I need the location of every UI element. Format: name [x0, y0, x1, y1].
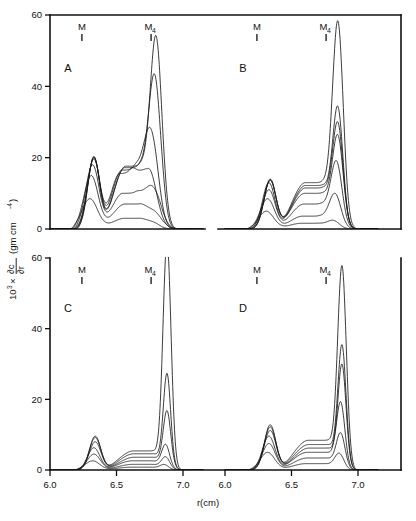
curve-A6	[50, 74, 203, 229]
marker-m-label-A: M	[78, 21, 86, 32]
marker-m4-sub-C: 4	[152, 270, 156, 277]
x-tick-label-C-6.0: 6.0	[43, 479, 56, 490]
marker-m-label-D: M	[253, 264, 261, 275]
curve-D3	[225, 402, 378, 470]
y-tick-label-top-40: 40	[31, 81, 42, 92]
y-tick-label-bottom-0: 0	[37, 464, 42, 475]
x-axis-title: r(cm)	[197, 497, 219, 508]
marker-m4-sub-D: 4	[327, 270, 331, 277]
y-tick-label-bottom-40: 40	[31, 323, 42, 334]
y-axis-title-units-open: (gm cm	[7, 222, 18, 254]
y-axis-title-units-exponent: -4	[6, 203, 13, 209]
x-tick-label-D-6.0: 6.0	[218, 479, 231, 490]
marker-m-label-B: M	[253, 21, 261, 32]
curve-B4	[225, 134, 378, 229]
curve-C6	[50, 242, 203, 470]
panel-letter-A: A	[64, 62, 72, 74]
y-tick-label-top-60: 60	[31, 9, 42, 20]
curve-B1	[225, 211, 378, 229]
curve-A2	[50, 176, 203, 230]
y-tick-label-top-0: 0	[37, 223, 42, 234]
panel-letter-D: D	[239, 302, 247, 314]
curve-A1	[50, 199, 203, 229]
curve-C3	[50, 444, 203, 470]
x-tick-label-D-6.5: 6.5	[285, 479, 298, 490]
panel-D-curves	[225, 266, 378, 471]
y-tick-label-top-20: 20	[31, 152, 42, 163]
curve-B7	[225, 21, 378, 229]
x-tick-label-D-7.0: 7.0	[351, 479, 364, 490]
x-tick-label-C-6.5: 6.5	[110, 479, 123, 490]
curve-C4	[50, 411, 203, 470]
marker-m4-sub-B: 4	[327, 27, 331, 34]
curve-A5	[50, 127, 203, 229]
marker-m-label-C: M	[78, 264, 86, 275]
panel-B-curves	[225, 21, 378, 229]
curve-B5	[225, 122, 378, 229]
y-axis-title: 103×∂c∂r(gm cm-4)	[5, 199, 26, 300]
y-tick-label-bottom-60: 60	[31, 252, 42, 263]
marker-m4-sub-A: 4	[152, 27, 156, 34]
y-axis-title-denominator: ∂r	[15, 266, 26, 274]
y-axis-title-exponent: 3	[6, 285, 13, 289]
y-tick-label-bottom-20: 20	[31, 394, 42, 405]
y-axis-title-prefix: 10	[7, 289, 18, 300]
panel-letter-B: B	[239, 62, 246, 74]
x-tick-label-C-7.0: 7.0	[176, 479, 189, 490]
curve-B6	[225, 106, 378, 229]
panel-A-curves	[50, 35, 203, 229]
y-axis-title-times: ×	[7, 278, 18, 284]
figure-root: 002020404060606.06.57.06.06.57.0MM4MM4MM…	[0, 0, 416, 521]
sedimentation-figure: 002020404060606.06.57.06.06.57.0MM4MM4MM…	[0, 0, 416, 521]
curve-C5	[50, 373, 203, 470]
curve-A3	[50, 165, 203, 229]
curve-D6	[225, 266, 378, 471]
y-axis-title-units-close: )	[7, 199, 18, 202]
panel-C-curves	[50, 242, 203, 470]
curve-A7	[50, 35, 203, 229]
panel-letter-C: C	[64, 302, 72, 314]
